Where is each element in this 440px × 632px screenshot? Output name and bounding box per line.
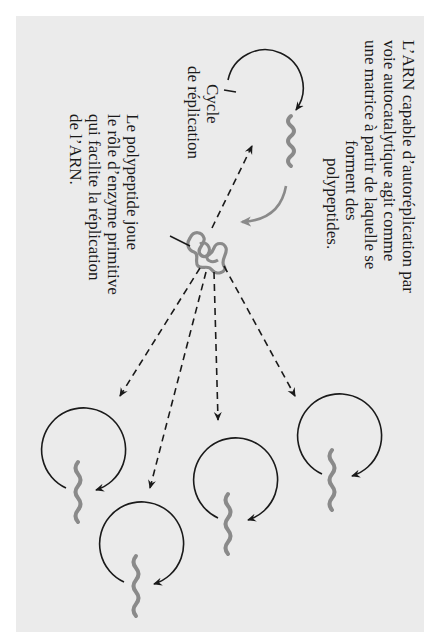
caption-line: forment des (342, 40, 361, 293)
rna-strand-icon (76, 462, 81, 522)
polypeptide-label-line: le rôle d’enzyme primitive (104, 114, 123, 295)
caption-line: polypeptides. (323, 40, 342, 293)
caption-line: une matrice à partir de laquelle se (361, 40, 380, 293)
polypeptide-label-line: de l’ARN. (66, 114, 85, 295)
cycle-leader-line (224, 90, 236, 92)
rna-strand-icon (288, 116, 294, 166)
replication-cycle-copy-1 (298, 394, 382, 510)
rna-strand-icon (134, 556, 139, 616)
caption-line: voie autocatalytique agit comme (380, 40, 399, 293)
polypeptide-knot-icon (170, 233, 226, 273)
main-caption: L’ARN capable d’autoréplication par voie… (323, 40, 418, 293)
rna-strand-icon (330, 450, 335, 510)
polypeptide-label-line: qui facilite la réplication (85, 114, 104, 295)
dashed-arrow-2 (214, 272, 218, 420)
cycle-label-line: Cycle (203, 66, 222, 159)
dashed-arrows (120, 146, 295, 488)
replication-cycle-copy-4 (100, 502, 184, 616)
caption-line: L’ARN capable d’autoréplication par (399, 40, 418, 293)
rna-strand-icon (226, 494, 231, 554)
polypeptide-label-line: Le polypeptide joue (123, 114, 142, 295)
replication-cycle-original (224, 50, 303, 166)
dashed-arrow-1 (224, 266, 295, 396)
replication-cycle-copy-3 (42, 408, 126, 522)
replication-cycle-copy-2 (194, 438, 278, 554)
translation-arrow-icon (242, 186, 286, 222)
polypeptide-label: Le polypeptide joue le rôle d’enzyme pri… (66, 114, 142, 295)
cycle-label-line: de réplication (184, 66, 203, 159)
cycle-label: Cycle de réplication (184, 66, 222, 159)
